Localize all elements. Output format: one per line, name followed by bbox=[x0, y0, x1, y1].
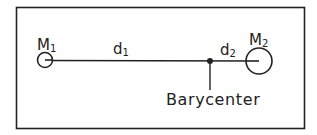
distance-1-label: d1 bbox=[113, 40, 129, 58]
barycenter-label: Barycenter bbox=[166, 90, 260, 109]
connecting-line bbox=[45, 61, 259, 62]
barycenter-diagram: M1 M2 d1 d2 Barycenter bbox=[0, 0, 317, 135]
mass-1-label: M1 bbox=[37, 36, 56, 54]
distance-2-label: d2 bbox=[220, 41, 236, 59]
mass-2-label: M2 bbox=[249, 31, 268, 49]
